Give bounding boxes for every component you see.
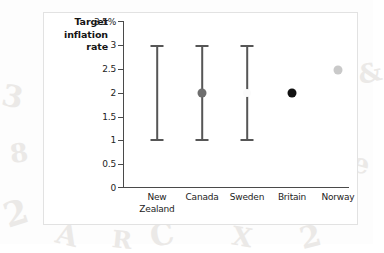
y-axis-tick (118, 187, 124, 188)
y-axis-tick-label: 3.5% (94, 17, 116, 27)
y-axis-tick-label: 1 (110, 135, 116, 145)
data-point-canada (198, 89, 207, 98)
y-axis-tick (118, 93, 124, 94)
x-axis-line (123, 187, 349, 188)
watermark-glyph: 2 (0, 193, 32, 233)
y-axis-tick-label: 0.5 (102, 159, 116, 169)
range-cap-top-new-zealand (151, 45, 164, 47)
x-axis-label-line: Zealand (139, 204, 174, 216)
x-axis-label-canada: Canada (185, 192, 218, 204)
range-cap-bottom-canada (196, 139, 209, 141)
x-axis-label-line: New (139, 192, 174, 204)
y-axis-tick (118, 69, 124, 70)
x-axis-label-norway: Norway (322, 192, 355, 204)
x-axis-label-britain: Britain (278, 192, 306, 204)
y-axis-line (123, 21, 124, 188)
y-axis-title-line: inflation (46, 29, 108, 42)
y-axis-tick (118, 117, 124, 118)
x-axis-label-new-zealand: New Zealand (139, 192, 174, 215)
y-axis-title-line: rate (46, 41, 108, 54)
y-axis-tick (118, 140, 124, 141)
watermark-glyph: 8 (8, 139, 30, 167)
y-axis-tick-label: 3 (110, 40, 116, 50)
data-point-sweden (243, 89, 251, 97)
range-cap-bottom-sweden (241, 139, 254, 141)
y-axis-tick (118, 21, 124, 22)
x-axis-label-sweden: Sweden (230, 192, 264, 204)
range-cap-bottom-new-zealand (151, 139, 164, 141)
x-axis-label-line: Norway (322, 192, 355, 204)
x-axis-label-line: Sweden (230, 192, 264, 204)
watermark-glyph: X (230, 223, 254, 252)
y-axis-tick-label: 0 (110, 183, 116, 193)
watermark-glyph: & (356, 58, 384, 88)
range-cap-top-canada (196, 45, 209, 47)
y-axis-tick-label: 1.5 (102, 112, 116, 122)
watermark-glyph: 3 (0, 80, 26, 114)
y-axis-tick (118, 164, 124, 165)
watermark-glyph: R (111, 227, 133, 253)
data-point-norway (334, 66, 343, 75)
x-axis-label-line: Britain (278, 192, 306, 204)
range-cap-top-sweden (241, 45, 254, 47)
y-axis-tick (118, 45, 124, 46)
y-axis-tick-label: 2 (110, 88, 116, 98)
x-axis-label-line: Canada (185, 192, 218, 204)
plot-area: Target inflation rate 3.5% 3 2.5 2 1.5 1… (44, 13, 357, 224)
y-axis-tick-label: 2.5 (102, 64, 116, 74)
chart-container: Target inflation rate 3.5% 3 2.5 2 1.5 1… (43, 12, 358, 225)
range-bar-new-zealand (156, 45, 158, 140)
data-point-britain (288, 89, 297, 98)
